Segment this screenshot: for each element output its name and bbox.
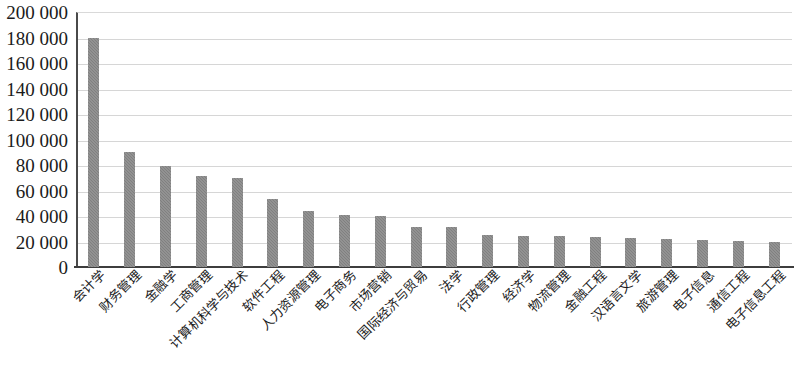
y-axis-tick-label: 100 000 — [6, 130, 68, 149]
y-axis: 020 00040 00060 00080 000100 000120 0001… — [0, 0, 72, 280]
y-axis-tick-label: 200 000 — [6, 3, 68, 22]
x-axis-tick-label-text: 法学 — [438, 268, 466, 296]
y-axis-tick-label: 160 000 — [6, 54, 68, 73]
y-axis-tick-label: 180 000 — [6, 28, 68, 47]
y-axis-tick-label: 140 000 — [6, 79, 68, 98]
y-axis-tick-label: 120 000 — [6, 105, 68, 124]
bar — [88, 38, 99, 268]
y-axis-tick-label: 80 000 — [16, 156, 68, 175]
x-axis: 会计学财务管理金融学工商管理计算机科学与技术软件工程人力资源管理电子商务市场营销… — [0, 268, 794, 389]
bar-chart: 020 00040 00060 00080 000100 000120 0001… — [0, 0, 794, 389]
x-axis-tick-label-text: 国际经济与贸易 — [356, 268, 430, 342]
y-axis-tick-label: 60 000 — [16, 181, 68, 200]
bar — [482, 235, 493, 267]
y-axis-tick-label: 40 000 — [16, 207, 68, 226]
y-axis-tick-label: 20 000 — [16, 232, 68, 251]
